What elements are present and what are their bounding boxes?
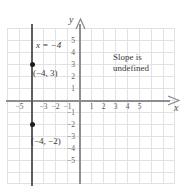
y-tick-label: 4 (66, 48, 80, 57)
coordinate-plane-figure: x y −5 −3 −2 −1 1 2 3 4 5 5 4 3 2 1 −1 −… (0, 0, 185, 196)
vertical-line-x-equals-negative-4 (31, 24, 33, 186)
x-tick-label: −5 (13, 102, 27, 111)
equation-label: x = −4 (36, 40, 61, 50)
y-axis-label: y (69, 14, 73, 25)
y-tick-label: −3 (64, 132, 78, 141)
y-tick-label: 5 (66, 36, 80, 45)
y-tick-label: 2 (66, 72, 80, 81)
slope-note-line-2: undefined (113, 63, 165, 74)
data-point (30, 62, 35, 67)
point-label-upper: (−4, 3) (33, 68, 58, 78)
point-label-lower: (−4, −2) (31, 136, 61, 146)
y-tick-label: −4 (64, 144, 78, 153)
y-tick-label: −1 (64, 108, 78, 117)
y-tick-label: −2 (64, 120, 78, 129)
slope-note-line-1: Slope is (113, 52, 165, 63)
x-axis-label: x (174, 102, 178, 113)
y-axis-arrow-icon (74, 18, 87, 30)
x-tick-label: 5 (133, 102, 147, 111)
slope-note: Slope is undefined (113, 52, 165, 74)
y-tick-label: −5 (64, 156, 78, 165)
y-tick-label: 3 (66, 60, 80, 69)
y-tick-label: 1 (66, 84, 80, 93)
data-point (30, 122, 35, 127)
